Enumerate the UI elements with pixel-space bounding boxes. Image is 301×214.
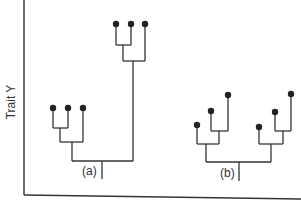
tip-dot (80, 105, 86, 111)
tip-dot (256, 124, 262, 130)
tip-dot (113, 21, 119, 27)
tip-dot (50, 105, 56, 111)
tip-dot (142, 21, 148, 27)
tip-dot (288, 91, 294, 97)
tree-b-tips (194, 91, 294, 130)
axes (24, 0, 301, 199)
tip-dot (225, 92, 231, 98)
phylogeny-diagram (0, 0, 301, 214)
tree-a (53, 25, 145, 179)
y-axis-label: Trait Y (1, 82, 21, 122)
tip-dot (65, 105, 71, 111)
tip-dot (194, 122, 200, 128)
tree-a-label: (a) (82, 165, 97, 177)
tip-dot (128, 21, 134, 27)
tip-dot (208, 108, 214, 114)
tip-dot (272, 109, 278, 115)
x-axis (24, 195, 301, 199)
tree-b-label: (b) (220, 167, 235, 179)
y-axis-label-text: Trait Y (4, 85, 18, 120)
